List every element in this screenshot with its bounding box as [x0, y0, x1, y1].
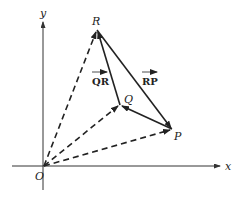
vector-PQ	[122, 106, 172, 129]
point-label-R: R	[91, 15, 100, 28]
vector-label-QR: QR	[92, 72, 110, 87]
vector-diagram: R Q P O x y QR RP	[0, 0, 238, 201]
vector-label-RP: RP	[142, 72, 158, 87]
vector-label-QR-text: QR	[92, 76, 110, 87]
vector-label-RP-text: RP	[142, 76, 158, 87]
x-axis-label: x	[225, 160, 232, 173]
y-axis-label: y	[39, 7, 47, 20]
vector-QR	[98, 32, 120, 105]
origin-label: O	[35, 170, 44, 183]
point-label-P: P	[173, 130, 182, 143]
vector-OP	[44, 130, 170, 166]
point-label-Q: Q	[124, 93, 133, 106]
